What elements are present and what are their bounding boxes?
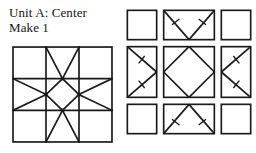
block-cell-flying-geese-down: [46, 47, 79, 79]
block-cell-flying-geese-up: [46, 110, 79, 142]
caption-line-make: Make 1: [9, 20, 129, 35]
assembled-block-svg: [12, 46, 113, 143]
unit-grid: [126, 9, 252, 148]
unit-grid-svg: [126, 9, 252, 148]
unit-cell-square-in-square-center: [164, 47, 215, 98]
caption-line-unit: Unit A: Center: [9, 5, 129, 20]
assembled-block: [12, 46, 113, 143]
unit-cell-plain-top-right: [221, 10, 250, 39]
unit-cell-plain-bottom-left: [127, 104, 156, 133]
unit-cell-flying-geese-up-bottom: [164, 104, 215, 133]
block-cell-square-in-square: [46, 79, 79, 111]
unit-cell-flying-geese-left-middle: [221, 47, 250, 98]
block-cell-flying-geese-right: [13, 79, 46, 111]
block-outer-frame: [13, 47, 112, 142]
unit-cell-plain-top-left: [127, 10, 156, 39]
quilt-unit-diagram: Unit A: Center Make 1: [0, 0, 256, 153]
block-seam-nodes: [44, 77, 80, 112]
unit-cell-flying-geese-right-middle: [127, 47, 156, 98]
caption: Unit A: Center Make 1: [9, 5, 129, 35]
block-cell-flying-geese-left: [79, 79, 112, 111]
unit-cell-plain-bottom-right: [221, 104, 250, 133]
unit-cell-flying-geese-down-top: [164, 10, 215, 39]
